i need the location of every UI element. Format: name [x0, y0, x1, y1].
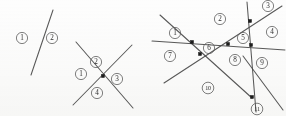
arrangement-line [152, 41, 285, 50]
intersection-vertex-dot [250, 95, 253, 98]
region-label-text: 11 [254, 106, 260, 112]
region-label-text: 4 [95, 89, 99, 97]
region-label-5: 5 [237, 32, 248, 43]
panel-two-crossing-lines-arrangement: 2134 [73, 42, 133, 108]
region-label-text: 1 [20, 34, 24, 42]
region-label-text: 10 [205, 85, 211, 91]
region-label-text: 9 [260, 59, 264, 67]
region-label-2: 2 [90, 56, 101, 67]
region-label-11: 11 [251, 103, 263, 115]
arrangement-line [31, 10, 53, 75]
region-label-text: 6 [207, 44, 211, 52]
region-label-text: 2 [50, 34, 54, 42]
region-label-2: 2 [214, 13, 225, 24]
region-label-text: 2 [218, 15, 222, 23]
region-label-7: 7 [164, 50, 175, 61]
line-arrangement-figure: 1221341234567891011 [0, 0, 286, 116]
intersection-vertex-dot [198, 52, 201, 55]
panel-five-line-arrangement: 1234567891011 [152, 0, 285, 114]
intersection-vertex-dot [249, 43, 252, 46]
region-label-text: 3 [115, 75, 119, 83]
region-label-text: 2 [94, 58, 98, 66]
region-label-1: 1 [75, 68, 86, 79]
region-label-text: 7 [168, 52, 172, 60]
panel-single-line-arrangement: 12 [16, 10, 57, 75]
region-label-10: 10 [202, 82, 214, 94]
region-label-text: 5 [241, 34, 245, 42]
region-label-6: 6 [203, 42, 214, 53]
region-label-9: 9 [256, 57, 267, 68]
region-label-text: 4 [270, 28, 274, 36]
region-label-1: 1 [169, 27, 180, 38]
figure-root: 1221341234567891011 [0, 0, 286, 116]
intersection-vertex-dot [248, 19, 251, 22]
region-label-4: 4 [91, 87, 102, 98]
region-label-3: 3 [262, 0, 273, 11]
region-label-3: 3 [111, 73, 122, 84]
intersection-vertex-dot [226, 42, 229, 45]
region-label-2: 2 [46, 32, 57, 43]
region-label-1: 1 [16, 32, 27, 43]
region-label-text: 1 [173, 29, 177, 37]
region-label-text: 1 [79, 70, 83, 78]
region-label-text: 3 [266, 2, 270, 10]
region-label-4: 4 [266, 26, 277, 37]
region-label-text: 8 [233, 56, 237, 64]
intersection-vertex-dot [101, 74, 104, 77]
region-label-8: 8 [229, 54, 240, 65]
intersection-vertex-dot [190, 40, 193, 43]
